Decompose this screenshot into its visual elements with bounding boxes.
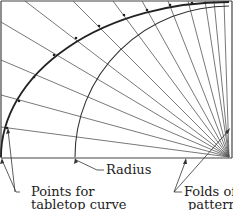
fold-lines <box>1 1 229 157</box>
pattern-frame <box>1 1 232 158</box>
pattern-diagram <box>0 0 233 210</box>
arrowheads <box>0 128 230 164</box>
leader-lines <box>2 130 229 192</box>
folds-label-line2: pattern <box>188 198 233 210</box>
curve-points <box>6 2 194 130</box>
tabletop-curve-arc <box>1 2 229 157</box>
radius-label: Radius <box>106 163 151 177</box>
points-label-line2: tabletop curve <box>31 198 127 210</box>
